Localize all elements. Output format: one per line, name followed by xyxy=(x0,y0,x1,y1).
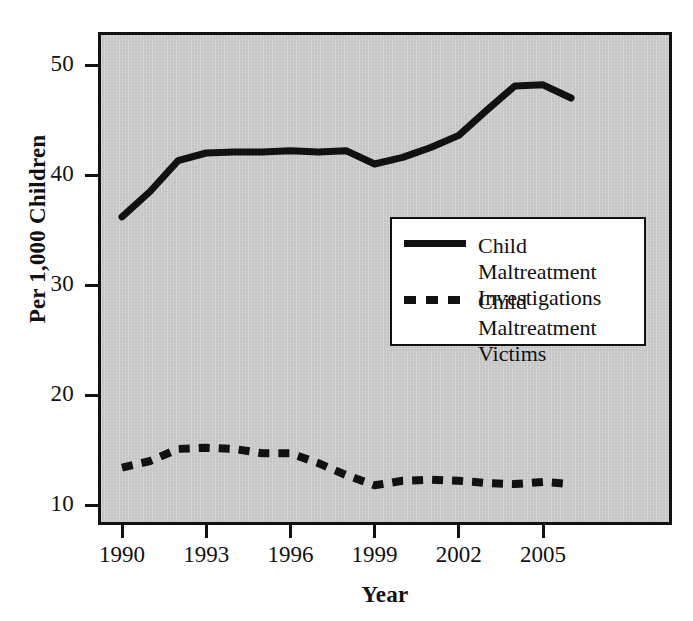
y-tick-label: 50 xyxy=(0,52,74,75)
legend-label-line2: Victims xyxy=(478,341,546,366)
x-tick-label: 1990 xyxy=(99,543,145,567)
legend-label-line1: Child Maltreatment xyxy=(478,233,597,284)
x-tick-label: 1999 xyxy=(352,543,398,567)
y-tick-label: 20 xyxy=(0,382,74,405)
y-tick-mark xyxy=(85,394,98,397)
chart-legend: Child Maltreatment Investigations Child … xyxy=(390,217,646,346)
x-tick-mark xyxy=(121,525,124,538)
chart-figure: 1020304050 199019931996199920022005 Per … xyxy=(0,0,693,621)
x-tick-mark xyxy=(457,525,460,538)
legend-item-victims: Child Maltreatment Victims xyxy=(404,289,644,367)
y-tick-mark xyxy=(85,64,98,67)
x-tick-mark xyxy=(205,525,208,538)
legend-label-line1: Child Maltreatment xyxy=(478,289,597,340)
x-axis-title: Year xyxy=(98,582,672,608)
legend-label-victims: Child Maltreatment Victims xyxy=(478,289,644,367)
x-tick-mark xyxy=(542,525,545,538)
x-tick-label: 1996 xyxy=(267,543,313,567)
series-line-victims xyxy=(122,448,571,485)
x-tick-label: 2002 xyxy=(436,543,482,567)
y-axis-title: Per 1,000 Children xyxy=(25,129,51,329)
y-tick-label: 10 xyxy=(0,492,74,515)
x-tick-mark xyxy=(373,525,376,538)
series-line-investigations xyxy=(122,85,571,217)
y-tick-mark xyxy=(85,504,98,507)
x-tick-label: 1993 xyxy=(183,543,229,567)
dashed-line-swatch-icon xyxy=(404,289,466,311)
solid-line-swatch-icon xyxy=(404,233,466,255)
y-tick-mark xyxy=(85,174,98,177)
x-tick-label: 2005 xyxy=(520,543,566,567)
x-tick-mark xyxy=(289,525,292,538)
y-tick-mark xyxy=(85,284,98,287)
